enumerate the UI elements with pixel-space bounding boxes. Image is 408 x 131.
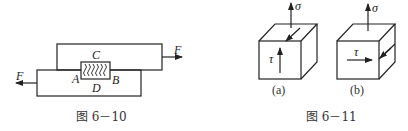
label-tau: τ bbox=[269, 52, 274, 66]
label-force-left: F bbox=[15, 69, 24, 83]
label-c: C bbox=[92, 48, 101, 62]
label-force-right: F bbox=[173, 43, 182, 57]
label-sigma: σ bbox=[295, 0, 302, 13]
label-a: A bbox=[71, 72, 80, 86]
inclined-shear-arrow-icon bbox=[286, 28, 300, 41]
figure-6-11a: σ τ (a) bbox=[259, 0, 317, 97]
label-sigma: σ bbox=[372, 1, 379, 15]
caption-6-11: 图 6－11 bbox=[306, 110, 357, 124]
label-b: B bbox=[112, 73, 120, 87]
panel-label-b: (b) bbox=[350, 83, 364, 97]
figure-6-10: F F C A B D 图 6－10 bbox=[15, 43, 182, 124]
figures-canvas: F F C A B D 图 6－10 σ τ (a) σ τ (b) 图 6－1… bbox=[0, 0, 408, 131]
panel-label-a: (a) bbox=[272, 83, 285, 97]
label-tau: τ bbox=[354, 45, 359, 59]
label-d: D bbox=[91, 81, 101, 95]
caption-6-10: 图 6－10 bbox=[76, 110, 127, 124]
inclined-shear-arrow-icon bbox=[380, 48, 391, 58]
figure-6-11b: σ τ (b) bbox=[337, 1, 395, 97]
cube-top-face bbox=[337, 24, 395, 41]
